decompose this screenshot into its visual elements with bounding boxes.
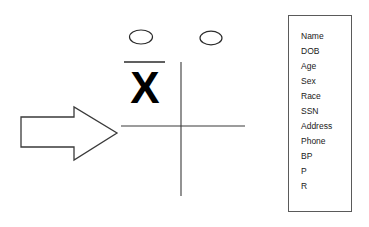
diagram-canvas: X Name DOB Age Sex Race SSN Address Phon… xyxy=(0,0,369,227)
x-mark: X xyxy=(124,63,166,113)
right-arrow xyxy=(18,104,120,166)
list-item: BP xyxy=(301,149,349,164)
patient-field-list-items: Name DOB Age Sex Race SSN Address Phone … xyxy=(301,29,349,194)
list-item: Phone xyxy=(301,134,349,149)
list-item: Name xyxy=(301,29,349,44)
list-item: Address xyxy=(301,119,349,134)
list-item: R xyxy=(301,179,349,194)
oval-right-icon xyxy=(200,31,222,45)
list-item: Sex xyxy=(301,74,349,89)
list-item: P xyxy=(301,164,349,179)
list-item: DOB xyxy=(301,44,349,59)
oval-left-icon xyxy=(130,30,153,44)
quadrant-cross-figure xyxy=(118,24,250,202)
list-item: SSN xyxy=(301,104,349,119)
list-item: Age xyxy=(301,59,349,74)
list-item: Race xyxy=(301,89,349,104)
patient-field-list: Name DOB Age Sex Race SSN Address Phone … xyxy=(288,15,352,212)
right-arrow-shape xyxy=(21,107,117,160)
